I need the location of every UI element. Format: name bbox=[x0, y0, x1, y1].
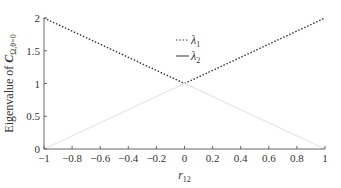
legend-label-lambda2-sub: 2 bbox=[196, 56, 200, 65]
x-tick-label: 0.6 bbox=[262, 152, 276, 164]
y-axis-label: Eigenvalue of CΩ,θ=0 bbox=[2, 34, 18, 132]
y-axis-label-main: Eigenvalue of bbox=[2, 63, 16, 133]
y-tick-label: 1 bbox=[35, 78, 41, 90]
y-tick-label: 0.5 bbox=[26, 110, 40, 122]
x-tick-label: −0.8 bbox=[62, 152, 82, 164]
y-axis-label-sub: Ω,θ=0 bbox=[9, 34, 18, 54]
y-tick-label: 0 bbox=[35, 143, 41, 155]
series-layer bbox=[44, 18, 325, 149]
x-tick-label: 1 bbox=[322, 152, 328, 164]
x-tick-label: −0.6 bbox=[90, 152, 110, 164]
x-tick-label: 0 bbox=[182, 152, 188, 164]
series-line-lambda1 bbox=[44, 18, 325, 84]
x-tick-label: −0.2 bbox=[146, 152, 166, 164]
x-tick-label: 0.4 bbox=[234, 152, 248, 164]
x-axis-label-sub: 12 bbox=[183, 175, 191, 184]
x-axis-label: r12 bbox=[178, 168, 191, 184]
x-tick-label: 0.8 bbox=[290, 152, 304, 164]
x-tick-label: 0.2 bbox=[206, 152, 220, 164]
legend-label-lambda2: λ2 bbox=[190, 49, 200, 65]
y-tick-label: 1.5 bbox=[26, 45, 40, 57]
y-tick-label: 2 bbox=[35, 12, 41, 24]
x-tick-label: −0.4 bbox=[118, 152, 138, 164]
legend-label-lambda1-sub: 1 bbox=[196, 40, 200, 49]
eigenvalue-chart: −1−0.8−0.6−0.4−0.200.20.40.60.81 00.511.… bbox=[0, 0, 341, 188]
legend: λ1 λ2 bbox=[176, 33, 200, 65]
legend-label-lambda1: λ1 bbox=[190, 33, 200, 49]
series-line-lambda2 bbox=[44, 84, 325, 150]
